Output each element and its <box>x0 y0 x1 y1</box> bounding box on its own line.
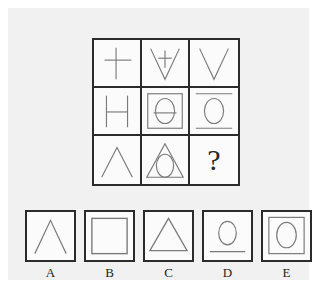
matrix-cell-row3-col2[interactable] <box>142 136 190 184</box>
answer-options: A B <box>25 210 315 286</box>
option-e-box[interactable] <box>261 210 312 262</box>
ellipse-over-line-icon <box>204 212 251 260</box>
option-d[interactable]: D <box>202 210 253 280</box>
puzzle-panel: ? A <box>8 8 309 280</box>
option-a-label: A <box>25 266 76 280</box>
matrix-cell-row3-col3[interactable]: ? <box>190 136 238 184</box>
matrix-cell-row1-col1[interactable] <box>94 40 142 88</box>
question-mark-label: ? <box>190 145 238 175</box>
option-e-label: E <box>261 266 312 280</box>
triangle-with-ellipse-icon <box>142 136 188 184</box>
option-a-box[interactable] <box>25 210 76 262</box>
option-b-box[interactable] <box>84 210 135 262</box>
square-with-theta-icon <box>142 88 188 134</box>
v-shape-icon <box>190 40 238 86</box>
square-icon <box>86 212 133 260</box>
h-letter-icon <box>94 88 140 134</box>
option-b[interactable]: B <box>84 210 135 280</box>
v-with-cross-icon <box>142 40 188 86</box>
matrix-cell-row1-col3[interactable] <box>190 40 238 88</box>
caret-icon <box>94 136 140 184</box>
caret-icon <box>27 212 74 260</box>
matrix-cell-row1-col2[interactable] <box>142 40 190 88</box>
matrix-cell-row2-col2[interactable] <box>142 88 190 136</box>
option-a[interactable]: A <box>25 210 76 280</box>
option-b-label: B <box>84 266 135 280</box>
ellipse-between-lines-icon <box>190 88 238 134</box>
option-c-label: C <box>143 266 194 280</box>
square-with-ellipse-icon <box>263 212 310 260</box>
matrix-cell-row3-col1[interactable] <box>94 136 142 184</box>
option-e[interactable]: E <box>261 210 312 280</box>
option-d-box[interactable] <box>202 210 253 262</box>
option-d-label: D <box>202 266 253 280</box>
matrix-cell-row2-col3[interactable] <box>190 88 238 136</box>
triangle-icon <box>145 212 192 260</box>
matrix-cell-row2-col1[interactable] <box>94 88 142 136</box>
option-c-box[interactable] <box>143 210 194 262</box>
option-c[interactable]: C <box>143 210 194 280</box>
puzzle-page: ? A <box>0 0 317 288</box>
matrix-grid: ? <box>92 38 240 186</box>
cross-icon <box>94 40 140 86</box>
